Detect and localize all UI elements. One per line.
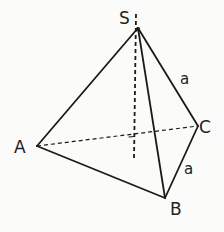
edge-ab	[37, 146, 165, 198]
edge-sb	[138, 28, 165, 198]
label-edge-bc: a	[184, 160, 193, 178]
apex-point	[136, 27, 140, 31]
label-edge-sc: a	[180, 70, 189, 88]
edge-ac-hidden	[37, 126, 198, 146]
label-s: S	[119, 8, 130, 28]
height-line	[134, 14, 136, 160]
label-a: A	[14, 137, 26, 157]
label-b: B	[170, 199, 182, 219]
edge-sa	[37, 28, 138, 146]
tetrahedron-diagram: S A B C a a	[0, 0, 224, 232]
label-c: C	[199, 117, 211, 137]
right-angle-mark	[129, 137, 134, 138]
